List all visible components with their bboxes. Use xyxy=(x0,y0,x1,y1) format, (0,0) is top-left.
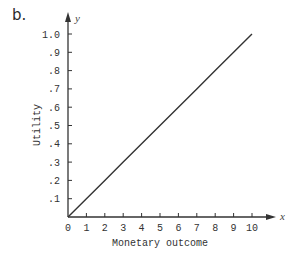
utility-chart: 012345678910.1.2.3.4.5.6.7.8.91.0 Moneta… xyxy=(0,0,303,259)
y-tick-label: .6 xyxy=(48,103,60,114)
y-tick-label: .3 xyxy=(48,158,60,169)
y-tick-label: .7 xyxy=(48,84,60,95)
x-tick-label: 8 xyxy=(212,223,218,234)
y-tick-label: .1 xyxy=(48,194,60,205)
y-axis-variable: y xyxy=(74,12,80,24)
x-tick-label: 10 xyxy=(246,223,258,234)
x-tick-label: 6 xyxy=(175,223,181,234)
x-tick-label: 0 xyxy=(65,223,71,234)
x-tick-label: 4 xyxy=(139,223,145,234)
x-tick-label: 1 xyxy=(83,223,89,234)
x-axis-arrow-icon xyxy=(266,214,276,220)
y-tick-label: .4 xyxy=(48,139,60,150)
x-axis-title: Monetary outcome xyxy=(112,238,208,249)
y-axis-arrow-icon xyxy=(65,12,71,22)
x-tick-label: 7 xyxy=(194,223,200,234)
y-tick-label: 1.0 xyxy=(42,30,60,41)
y-tick-label: .5 xyxy=(48,121,60,132)
data-series xyxy=(68,34,252,217)
x-tick-label: 9 xyxy=(231,223,237,234)
x-tick-label: 5 xyxy=(157,223,163,234)
y-tick-label: .2 xyxy=(48,176,60,187)
utility-line xyxy=(68,34,252,217)
x-tick-label: 2 xyxy=(102,223,108,234)
x-axis-variable: x xyxy=(279,210,285,222)
x-tick-label: 3 xyxy=(120,223,126,234)
y-tick-label: .8 xyxy=(48,66,60,77)
y-tick-label: .9 xyxy=(48,48,60,59)
y-axis-title: Utility xyxy=(32,104,43,146)
